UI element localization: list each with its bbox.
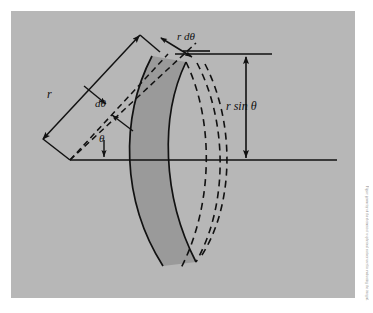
label-theta: θ [99,133,104,144]
label-arc-length: r dθ [177,31,195,42]
dimension-r-tick-far [140,35,160,52]
diagram-svg [0,0,373,313]
dashed-arcs [180,62,227,270]
side-caption: Figure geometry of the element of a sphe… [357,186,369,308]
dimension-r-tick-origin [43,139,70,160]
label-radius: r [47,88,52,100]
dtheta-arrow-lower [112,115,133,131]
dimension-r-line [43,35,140,139]
label-d-theta: dθ [95,98,106,109]
label-height: r sin θ [226,100,257,112]
figure-root: r dθ θ r dθ r sin θ Figure geometry of t… [0,0,373,313]
